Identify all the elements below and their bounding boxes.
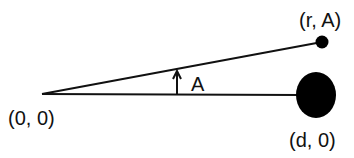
small-body-dot [316, 36, 329, 49]
large-body-circle [296, 72, 336, 118]
angle-label: A [191, 73, 205, 95]
angled-ray [42, 42, 322, 94]
earth-point-label: (d, 0) [289, 129, 336, 151]
baseline-ray [42, 94, 300, 95]
polar-diagram: A (0, 0) (r, A) (d, 0) [0, 0, 354, 158]
origin-label: (0, 0) [8, 107, 55, 129]
moon-point-label: (r, A) [299, 9, 341, 31]
